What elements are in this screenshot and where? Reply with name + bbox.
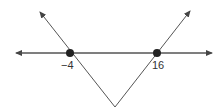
point-label-16: 16 <box>152 59 164 71</box>
diagram-canvas <box>0 0 221 112</box>
point-dot-neg4 <box>66 49 74 57</box>
point-dot-16 <box>153 49 161 57</box>
v-left-branch <box>40 12 115 107</box>
point-label-neg4: −4 <box>61 59 74 71</box>
